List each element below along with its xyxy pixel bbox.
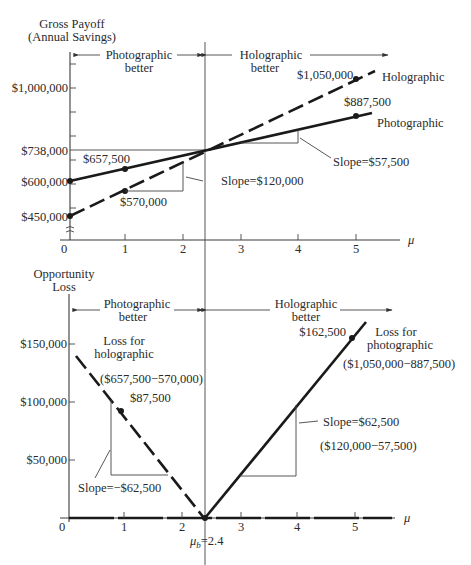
top-x-tick-2: 2 (180, 242, 186, 256)
loss-photo-label-line2: photographic (367, 338, 433, 352)
top-region-photo-line1: Photographic (106, 48, 173, 62)
loss-holo-point-1 (118, 408, 124, 414)
top-y-tick-738000: $738,000 (21, 144, 68, 158)
photo-slope-label: Slope=$57,500 (333, 155, 409, 169)
holo-series-label: Holographic (382, 70, 445, 84)
loss-photo-point-5 (349, 335, 355, 341)
top-y-tick-450000: $450,000 (21, 210, 68, 224)
bottom-y-title-line1: Opportunity (33, 267, 95, 281)
top-y-tick-600000: $600,000 (21, 175, 68, 189)
top-y-tick-1000000: $1,000,000 (12, 81, 68, 95)
bottom-y-tick-150000: $150,000 (20, 337, 67, 351)
top-x-tick-0: 0 (61, 242, 67, 256)
bottom-x-tick-3: 3 (238, 520, 244, 534)
figure: Gross Payoff (Annual Savings) $1,000,000… (0, 0, 471, 565)
opportunity-loss-chart: Opportunity Loss $150,000 $100,000 $50,0… (20, 267, 455, 550)
bottom-x-label-mu: μ (403, 511, 410, 525)
loss-holo-value: $87,500 (130, 391, 171, 405)
photo-value-at-1: $657,500 (83, 152, 130, 166)
photo-point-0 (67, 178, 73, 184)
top-x-tick-3: 3 (238, 242, 244, 256)
bottom-x-tick-0: 0 (59, 520, 65, 534)
bottom-x-tick-1: 1 (121, 520, 127, 534)
top-y-ticks (70, 64, 76, 208)
bottom-region-photo-line1: Photographic (104, 297, 171, 311)
bottom-y-tick-100000: $100,000 (20, 395, 67, 409)
loss-photo-value: $162,500 (299, 325, 346, 339)
bottom-region-holo-line2: better (292, 310, 321, 324)
photo-point-1 (122, 166, 128, 172)
loss-holo-label-line1: Loss for (103, 334, 145, 348)
bottom-y-title-line2: Loss (52, 280, 76, 294)
top-region-holo-line1: Holographic (240, 48, 303, 62)
loss-holo-calc: ($657,500−570,000) (100, 372, 203, 386)
holographic-line (70, 71, 375, 216)
neg-slope-label: Slope=−$62,500 (78, 481, 161, 495)
bottom-x-tick-4: 4 (294, 520, 301, 534)
top-region-photo-line2: better (125, 61, 154, 75)
breakeven-label: μb=2.4 (189, 534, 224, 550)
photographic-line (70, 113, 372, 181)
bottom-x-tick-5: 5 (352, 520, 358, 534)
top-y-title-line1: Gross Payoff (39, 17, 105, 31)
top-x-tick-1: 1 (122, 242, 128, 256)
top-x-tick-4: 4 (295, 242, 302, 256)
top-y-title-line2: (Annual Savings) (28, 30, 116, 44)
loss-photo-calc: ($1,050,000−887,500) (343, 357, 455, 371)
holo-point-5 (353, 76, 359, 82)
holo-slope-leader (186, 177, 203, 181)
top-x-label-mu: μ (407, 233, 414, 247)
bottom-x-tick-2: 2 (179, 520, 185, 534)
loss-holo-label-line2: holographic (94, 347, 154, 361)
loss-photo-label-line1: Loss for (375, 325, 417, 339)
bottom-region-holo-line1: Holographic (275, 297, 338, 311)
top-region-holo-line2: better (251, 61, 280, 75)
gross-payoff-chart: Gross Payoff (Annual Savings) $1,000,000… (12, 17, 445, 565)
bottom-region-photo-line2: better (119, 310, 148, 324)
holo-value-at-1: $570,000 (120, 195, 167, 209)
pos-slope-label: Slope=$62,500 (323, 415, 399, 429)
photo-value-at-5: $887,500 (344, 95, 391, 109)
holo-point-0 (67, 213, 73, 219)
top-x-ticks (125, 234, 356, 240)
top-x-tick-5: 5 (353, 242, 359, 256)
photo-slope-leader (300, 138, 331, 158)
photo-series-label: Photographic (377, 116, 444, 130)
holo-value-at-5: $1,050,000 (297, 68, 353, 82)
holo-slope-label: Slope=$120,000 (221, 174, 303, 188)
breakeven-point (202, 515, 208, 521)
photo-point-5 (353, 113, 359, 119)
bottom-y-tick-50000: $50,000 (26, 453, 67, 467)
pos-slope-calc: ($120,000−57,500) (320, 439, 417, 453)
